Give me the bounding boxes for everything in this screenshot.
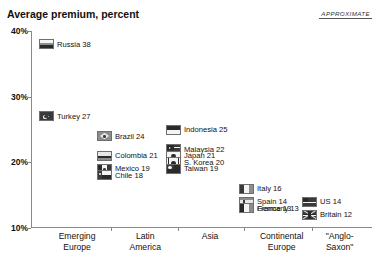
us-flag-icon (302, 197, 317, 207)
y-axis-tick (27, 228, 31, 229)
y-axis-tick-label: 30% (11, 92, 28, 102)
data-point-label: France 13 (257, 204, 291, 213)
cut-off-headline: A PREMIUM FOR EMERGING MARKETS PAY THOSE… (0, 0, 376, 5)
chile-flag-icon (97, 170, 112, 180)
data-point-label: Russia 38 (57, 40, 91, 49)
data-point-colombia: Colombia 21 (97, 151, 158, 161)
y-axis-tick-label: 20% (11, 157, 28, 167)
x-axis-line (31, 227, 372, 228)
x-axis-category-0: EmergingEurope (59, 231, 96, 253)
italy-flag-icon (239, 184, 254, 194)
y-axis-tick-label: 10% (11, 223, 28, 233)
y-axis-tick (27, 97, 31, 98)
data-point-label: Brazil 24 (115, 132, 145, 141)
data-point-label: Taiwan 19 (184, 164, 218, 173)
data-point-britain: Britain 12 (302, 210, 352, 220)
plot-area: Russia 38Turkey 27Brazil 24Colombia 21Me… (31, 31, 372, 228)
colombia-flag-icon (97, 151, 112, 161)
y-axis-tick (27, 31, 31, 32)
data-point-france: France 13 (239, 203, 291, 213)
indonesia-flag-icon (166, 125, 181, 135)
approximate-badge: APPROXIMATE (319, 10, 372, 19)
data-point-turkey: Turkey 27 (39, 111, 90, 121)
data-point-italy: Italy 16 (239, 184, 281, 194)
taiwan-flag-icon (166, 164, 181, 174)
turkey-flag-icon (39, 111, 54, 121)
x-axis-category-2: Asia (202, 231, 219, 242)
data-point-taiwan: Taiwan 19 (166, 164, 218, 174)
data-point-indonesia: Indonesia 25 (166, 125, 228, 135)
data-point-us: US 14 (302, 197, 341, 207)
data-point-chile: Chile 18 (97, 170, 143, 180)
france-flag-icon (239, 203, 254, 213)
britain-flag-icon (302, 210, 317, 220)
y-axis-tick (27, 162, 31, 163)
x-axis-category-3: ContinentalEurope (260, 231, 303, 253)
data-point-label: Turkey 27 (57, 112, 90, 121)
y-axis-labels: 10%20%30%40% (0, 31, 28, 228)
x-axis-category-1: LatinAmerica (129, 231, 161, 253)
data-point-label: Britain 12 (320, 210, 352, 219)
brazil-flag-icon (97, 131, 112, 141)
chart-subtitle: Average premium, percent (7, 8, 139, 20)
russia-flag-icon (39, 39, 54, 49)
y-axis-line (31, 31, 32, 228)
y-axis-tick-label: 40% (11, 26, 28, 36)
x-axis-category-labels: EmergingEuropeLatinAmericaAsiaContinenta… (31, 231, 372, 257)
data-point-brazil: Brazil 24 (97, 131, 145, 141)
data-point-label: Indonesia 25 (184, 125, 228, 134)
data-point-label: Italy 16 (257, 184, 281, 193)
data-point-label: US 14 (320, 197, 341, 206)
data-point-label: Colombia 21 (115, 151, 158, 160)
x-axis-category-4: "Anglo-Saxon" (323, 231, 355, 253)
data-point-label: Chile 18 (115, 171, 143, 180)
data-point-russia: Russia 38 (39, 39, 91, 49)
